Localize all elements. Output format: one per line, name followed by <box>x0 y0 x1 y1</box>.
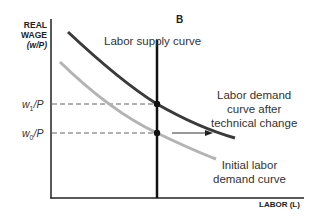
y-axis-title-line3: (w/P) <box>14 40 47 50</box>
demand-initial-label-line2: demand curve <box>213 172 286 186</box>
demand-after-label: Labor demand curve after technical chang… <box>211 88 297 130</box>
w0-base: w <box>22 127 30 139</box>
equilibrium-point-w0 <box>154 130 160 136</box>
equilibrium-point-w1 <box>154 101 160 107</box>
demand-initial-label-line1: Initial labor <box>213 158 286 172</box>
y-axis-title: REAL WAGE (w/P) <box>14 20 47 50</box>
y-axis-title-line1: REAL <box>14 20 47 30</box>
w0-tick-label: w0/P <box>22 127 43 141</box>
w0-tail: /P <box>34 127 44 139</box>
demand-after-label-line3: technical change <box>211 116 297 130</box>
labor-market-chart: REAL WAGE (w/P) LABOR (L) B Labor supply… <box>0 0 317 222</box>
w1-tail: /P <box>34 98 44 110</box>
initial-labor-demand-curve <box>60 62 216 159</box>
x-axis-title: LABOR (L) <box>259 200 300 210</box>
supply-curve-label: Labor supply curve <box>104 34 201 48</box>
w1-base: w <box>22 98 30 110</box>
demand-after-label-line2: curve after <box>211 102 297 116</box>
demand-initial-label: Initial labor demand curve <box>213 158 286 186</box>
w1-tick-label: w1/P <box>22 98 43 112</box>
panel-letter: B <box>176 14 183 25</box>
y-axis-title-line2: WAGE <box>14 30 47 40</box>
demand-after-label-line1: Labor demand <box>211 88 297 102</box>
